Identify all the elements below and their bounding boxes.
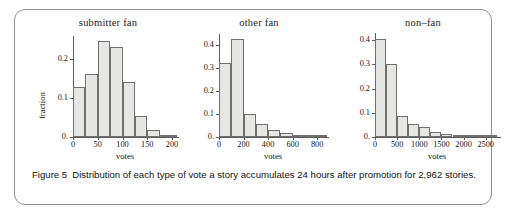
y-tick-label: 0.1	[193, 109, 214, 118]
x-tick-label: 0	[373, 140, 377, 149]
x-tick-label: 100	[116, 140, 128, 149]
y-tick-mark	[372, 89, 375, 90]
histogram-bar	[123, 82, 135, 137]
histogram-bar	[280, 133, 292, 137]
y-tick-label: 0.4	[349, 35, 370, 44]
x-tick-label: 2000	[455, 140, 472, 149]
x-axis-2	[219, 137, 329, 138]
y-tick-label: 0.2	[47, 54, 68, 63]
histogram-bar	[375, 39, 386, 137]
histogram-bar	[475, 135, 486, 137]
chart-panel-3: non–fan0.0.10.20.30.40500100015002000250…	[333, 14, 513, 164]
histogram-bar	[110, 47, 122, 138]
y-axis-label-1: fraction	[37, 92, 47, 119]
x-tick-label: 0	[71, 140, 75, 149]
y-tick-label: 0.	[193, 132, 214, 141]
histogram-bar	[160, 135, 172, 137]
y-tick-mark	[372, 64, 375, 65]
figure-card: submitter fan0.0.10.2050100150200votesfr…	[14, 9, 492, 205]
y-tick-label: 0.3	[349, 59, 370, 68]
y-tick-label: 0.1	[47, 93, 68, 102]
figure-number: Figure 5	[32, 169, 67, 180]
histogram-bar	[305, 135, 317, 137]
histogram-bar	[98, 41, 110, 137]
histogram-bar	[256, 124, 268, 137]
x-tick-label: 1500	[433, 140, 450, 149]
x-tick-label: 2500	[477, 140, 494, 149]
histogram-bar	[147, 130, 159, 137]
x-tick-label: 0	[217, 140, 221, 149]
histogram-bar	[408, 124, 419, 137]
y-tick-label: 0.	[349, 132, 370, 141]
histogram-bar	[293, 135, 305, 137]
histogram-bar	[464, 135, 475, 137]
histogram-bar	[419, 127, 430, 137]
x-tick-label: 1000	[411, 140, 428, 149]
y-tick-mark	[216, 45, 219, 46]
y-tick-label: 0.3	[193, 63, 214, 72]
chart-title-1: submitter fan	[25, 17, 191, 28]
figure-caption-text: Distribution of each type of vote a stor…	[72, 169, 476, 180]
y-tick-label: 0.2	[349, 84, 370, 93]
y-tick-mark	[372, 40, 375, 41]
chart-panels: submitter fan0.0.10.2050100150200votesfr…	[15, 14, 493, 164]
chart-panel-2: other fan0.0.10.20.30.40200400600800vote…	[177, 14, 341, 164]
plot-area-1: 0.0.10.2050100150200votesfraction	[73, 36, 177, 137]
y-tick-label: 0.1	[349, 108, 370, 117]
x-axis-3	[375, 137, 501, 138]
y-tick-mark	[372, 113, 375, 114]
figure-caption: Figure 5Distribution of each type of vot…	[32, 168, 476, 181]
histogram-bar	[219, 63, 231, 137]
chart-panel-1: submitter fan0.0.10.2050100150200votesfr…	[25, 14, 191, 164]
y-tick-label: 0.4	[193, 40, 214, 49]
x-axis-1	[73, 137, 179, 138]
plot-area-3: 0.0.10.20.30.405001000150020002500votes	[375, 33, 499, 137]
x-tick-label: 500	[391, 140, 403, 149]
y-tick-mark	[216, 91, 219, 92]
histogram-bar	[430, 132, 441, 137]
chart-title-3: non–fan	[333, 17, 513, 28]
histogram-bar	[486, 135, 497, 137]
histogram-bar	[386, 64, 397, 137]
y-tick-mark	[70, 98, 73, 99]
x-tick-label: 150	[141, 140, 153, 149]
plot-area-2: 0.0.10.20.30.40200400600800votes	[219, 34, 327, 137]
y-tick-label: 0.2	[193, 86, 214, 95]
histogram-bar	[453, 135, 464, 137]
x-tick-label: 200	[237, 140, 249, 149]
x-axis-label-3: votes	[375, 151, 499, 161]
x-axis-label-1: votes	[73, 151, 177, 161]
x-tick-label: 50	[94, 140, 102, 149]
chart-title-2: other fan	[177, 17, 341, 28]
y-tick-mark	[70, 59, 73, 60]
x-axis-label-2: votes	[219, 151, 327, 161]
histogram-bar	[441, 134, 452, 137]
histogram-bar	[85, 74, 97, 137]
x-tick-label: 800	[311, 140, 323, 149]
histogram-bar	[268, 130, 280, 137]
histogram-bar	[73, 87, 85, 137]
histogram-bar	[244, 114, 256, 137]
y-tick-mark	[216, 114, 219, 115]
histogram-bar	[231, 39, 243, 137]
x-tick-label: 400	[262, 140, 274, 149]
x-tick-label: 600	[286, 140, 298, 149]
histogram-bar	[317, 135, 327, 137]
histogram-bar	[397, 116, 408, 137]
histogram-bar	[135, 116, 147, 137]
y-tick-label: 0.	[47, 132, 68, 141]
y-tick-mark	[216, 68, 219, 69]
